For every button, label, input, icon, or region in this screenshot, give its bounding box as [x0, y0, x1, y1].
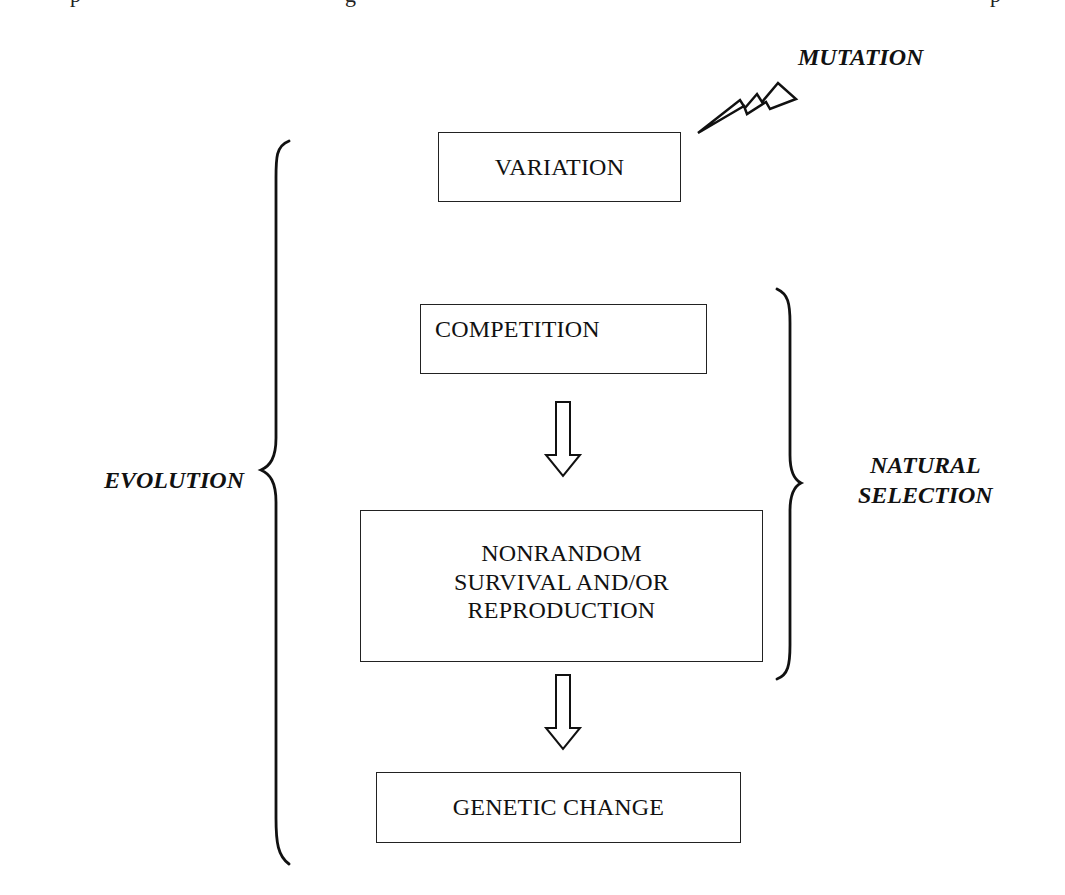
natural-selection-line-1: NATURAL	[858, 450, 993, 480]
nonrandom-survival-label: NONRANDOM SURVIVAL AND/OR REPRODUCTION	[454, 539, 669, 625]
nonrandom-line-2: SURVIVAL AND/OR	[454, 568, 669, 597]
lightning-bolt-icon	[695, 75, 835, 165]
page-top-fragment: p g p	[0, 0, 1065, 12]
competition-box: COMPETITION	[420, 304, 707, 374]
mutation-label: MUTATION	[798, 42, 923, 72]
natural-selection-brace-icon	[770, 285, 810, 685]
evolution-brace-icon	[256, 138, 296, 868]
evolution-label: EVOLUTION	[104, 465, 244, 495]
nonrandom-line-1: NONRANDOM	[454, 539, 669, 568]
text-fragment: p	[990, 0, 1001, 8]
variation-box: VARIATION	[438, 132, 681, 202]
nonrandom-survival-box: NONRANDOM SURVIVAL AND/OR REPRODUCTION	[360, 510, 763, 662]
nonrandom-line-3: REPRODUCTION	[454, 596, 669, 625]
down-arrow-icon	[546, 400, 586, 480]
down-arrow-icon	[546, 673, 586, 753]
text-fragment: g	[345, 0, 356, 8]
text-fragment: p	[70, 0, 81, 8]
genetic-change-label: GENETIC CHANGE	[453, 793, 664, 822]
natural-selection-label: NATURAL SELECTION	[858, 450, 993, 510]
natural-selection-line-2: SELECTION	[858, 480, 993, 510]
competition-label: COMPETITION	[435, 315, 600, 344]
genetic-change-box: GENETIC CHANGE	[376, 772, 741, 843]
variation-label: VARIATION	[495, 153, 624, 182]
